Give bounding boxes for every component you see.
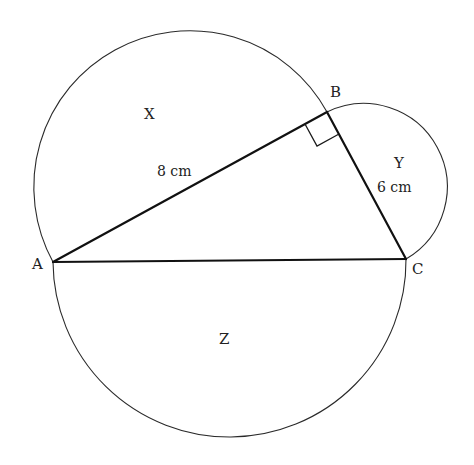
side-length-ab: 8 cm xyxy=(157,163,191,179)
vertex-label-a: A xyxy=(31,255,43,273)
right-triangle-semicircles-diagram: A B C X Y Z 8 cm 6 cm xyxy=(0,0,474,465)
region-label-z: Z xyxy=(219,330,229,348)
region-label-y: Y xyxy=(393,154,405,172)
vertex-label-b: B xyxy=(330,83,341,101)
region-label-x: X xyxy=(144,105,155,123)
side-ab xyxy=(53,112,327,262)
vertex-label-c: C xyxy=(412,260,423,278)
side-length-bc: 6 cm xyxy=(377,179,411,195)
semicircle-z xyxy=(53,259,406,437)
right-angle-marker xyxy=(305,124,339,146)
side-ac xyxy=(53,259,406,262)
semicircle-x xyxy=(34,31,327,262)
